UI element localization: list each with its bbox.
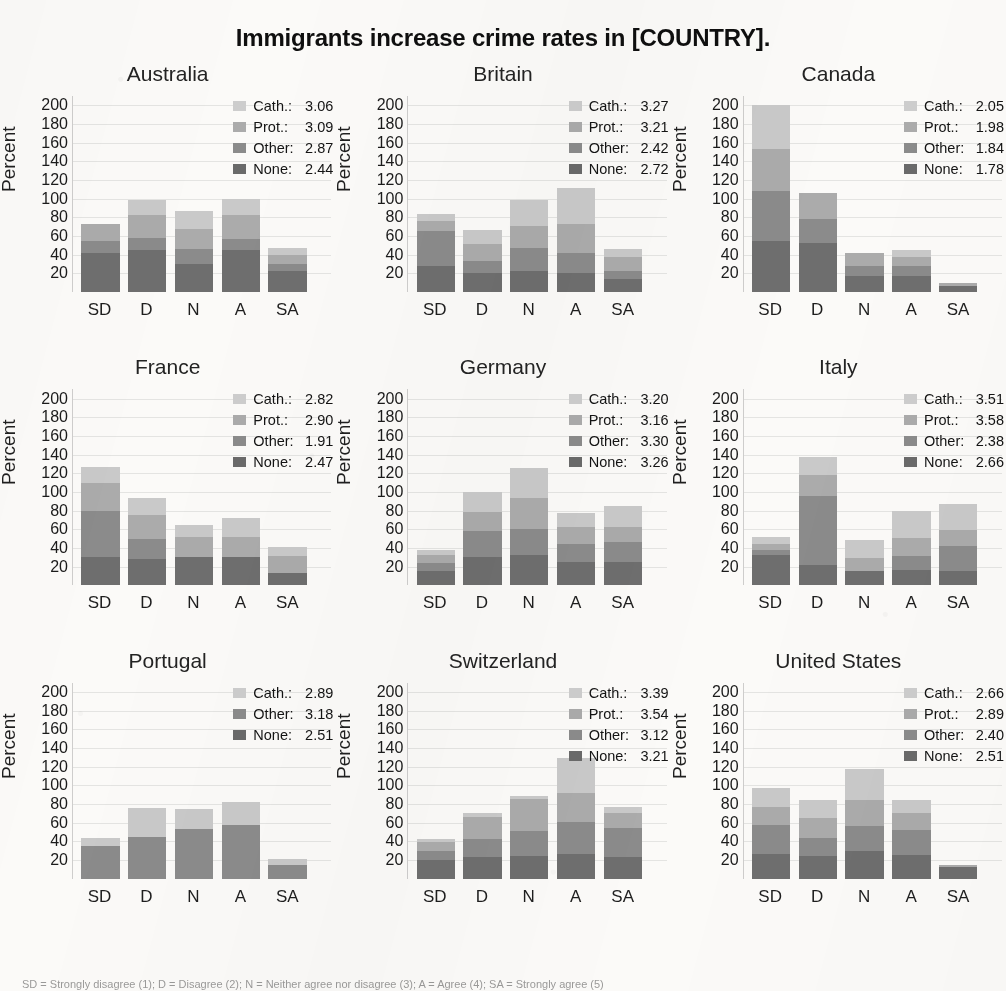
legend-item-prot[interactable]: Prot.:3.58: [904, 412, 1004, 428]
stacked-bar[interactable]: [752, 537, 790, 586]
legend-item-cath[interactable]: Cath.:2.89: [233, 685, 333, 701]
stacked-bar[interactable]: [799, 193, 837, 292]
legend-item-prot[interactable]: Prot.:1.98: [904, 119, 1004, 135]
bar-segment-cath: [752, 105, 790, 149]
stacked-bar[interactable]: [510, 796, 548, 879]
stacked-bar[interactable]: [81, 224, 119, 292]
legend-item-none[interactable]: None:2.44: [233, 161, 333, 177]
y-tick-label: 160: [712, 428, 739, 444]
legend-item-none[interactable]: None:2.66: [904, 454, 1004, 470]
stacked-bar[interactable]: [510, 468, 548, 586]
legend-item-none[interactable]: None:2.72: [569, 161, 669, 177]
stacked-bar[interactable]: [417, 839, 455, 878]
stacked-bar[interactable]: [557, 188, 595, 293]
legend-item-none[interactable]: None:3.26: [569, 454, 669, 470]
legend-text: None:2.47: [253, 454, 333, 470]
legend-item-prot[interactable]: Prot.:2.90: [233, 412, 333, 428]
legend-item-prot[interactable]: Prot.:3.54: [569, 706, 669, 722]
stacked-bar[interactable]: [128, 200, 166, 292]
legend-item-none[interactable]: None:3.21: [569, 748, 669, 764]
stacked-bar[interactable]: [845, 540, 883, 586]
legend-item-prot[interactable]: Prot.:3.09: [233, 119, 333, 135]
stacked-bar[interactable]: [752, 105, 790, 292]
legend-text: Other:2.40: [924, 727, 1004, 743]
bar-segment-none: [268, 573, 306, 585]
stacked-bar[interactable]: [939, 504, 977, 585]
legend-item-prot[interactable]: Prot.:3.21: [569, 119, 669, 135]
legend-item-prot[interactable]: Prot.:3.16: [569, 412, 669, 428]
stacked-bar[interactable]: [81, 838, 119, 879]
stacked-bar[interactable]: [463, 813, 501, 878]
legend-item-none[interactable]: None:2.51: [233, 727, 333, 743]
legend-item-other[interactable]: Other:1.91: [233, 433, 333, 449]
legend-item-none[interactable]: None:2.47: [233, 454, 333, 470]
stacked-bar[interactable]: [175, 211, 213, 292]
stacked-bar[interactable]: [268, 547, 306, 585]
stacked-bar[interactable]: [128, 808, 166, 879]
stacked-bar[interactable]: [268, 248, 306, 292]
legend-item-cath[interactable]: Cath.:3.20: [569, 391, 669, 407]
stacked-bar[interactable]: [81, 467, 119, 586]
stacked-bar[interactable]: [939, 865, 977, 879]
stacked-bar[interactable]: [845, 253, 883, 292]
legend-item-none[interactable]: None:1.78: [904, 161, 1004, 177]
legend-key: None:: [253, 727, 299, 743]
stacked-bar[interactable]: [463, 230, 501, 292]
stacked-bar[interactable]: [557, 513, 595, 586]
bar-segment-none: [752, 555, 790, 586]
legend-text: Cath.:2.89: [253, 685, 333, 701]
bar-segment-other: [557, 822, 595, 855]
bar-segment-other: [81, 846, 119, 879]
legend-value: 2.51: [303, 727, 333, 743]
legend-item-other[interactable]: Other:2.40: [904, 727, 1004, 743]
legend-item-other[interactable]: Other:2.87: [233, 140, 333, 156]
y-ticks-italy: 20406080100120140160180200: [693, 389, 739, 585]
stacked-bar[interactable]: [175, 809, 213, 879]
stacked-bar[interactable]: [799, 800, 837, 878]
legend-value: 3.18: [303, 706, 333, 722]
legend-item-none[interactable]: None:2.51: [904, 748, 1004, 764]
legend-item-cath[interactable]: Cath.:2.66: [904, 685, 1004, 701]
legend-item-other[interactable]: Other:1.84: [904, 140, 1004, 156]
stacked-bar[interactable]: [845, 769, 883, 878]
stacked-bar[interactable]: [604, 506, 642, 585]
stacked-bar[interactable]: [604, 249, 642, 292]
stacked-bar[interactable]: [604, 807, 642, 879]
stacked-bar[interactable]: [892, 250, 930, 292]
bar-segment-none: [892, 276, 930, 292]
legend-item-cath[interactable]: Cath.:3.27: [569, 98, 669, 114]
legend-value: 3.20: [639, 391, 669, 407]
stacked-bar[interactable]: [417, 550, 455, 585]
y-tick-label: 20: [721, 559, 739, 575]
legend-item-other[interactable]: Other:3.12: [569, 727, 669, 743]
legend-item-cath[interactable]: Cath.:2.82: [233, 391, 333, 407]
stacked-bar[interactable]: [510, 200, 548, 292]
legend-item-prot[interactable]: Prot.:2.89: [904, 706, 1004, 722]
stacked-bar[interactable]: [892, 800, 930, 878]
stacked-bar[interactable]: [222, 802, 260, 879]
stacked-bar[interactable]: [417, 214, 455, 292]
stacked-bar[interactable]: [175, 525, 213, 586]
legend-item-cath[interactable]: Cath.:2.05: [904, 98, 1004, 114]
legend-item-cath[interactable]: Cath.:3.06: [233, 98, 333, 114]
y-tick-label: 120: [377, 759, 404, 775]
bar-segment-none: [417, 266, 455, 292]
stacked-bar[interactable]: [892, 511, 930, 586]
stacked-bar[interactable]: [463, 492, 501, 585]
x-tick-label-sa: SA: [935, 593, 982, 617]
legend-item-cath[interactable]: Cath.:3.51: [904, 391, 1004, 407]
stacked-bar[interactable]: [557, 758, 595, 878]
stacked-bar[interactable]: [222, 199, 260, 292]
legend-item-other[interactable]: Other:3.18: [233, 706, 333, 722]
stacked-bar[interactable]: [799, 457, 837, 585]
legend-item-other[interactable]: Other:2.38: [904, 433, 1004, 449]
legend-item-other[interactable]: Other:2.42: [569, 140, 669, 156]
stacked-bar[interactable]: [128, 498, 166, 586]
stacked-bar[interactable]: [939, 283, 977, 292]
legend-item-other[interactable]: Other:3.30: [569, 433, 669, 449]
bar-slot-sd: [77, 96, 124, 292]
legend-item-cath[interactable]: Cath.:3.39: [569, 685, 669, 701]
stacked-bar[interactable]: [752, 788, 790, 879]
stacked-bar[interactable]: [222, 518, 260, 585]
stacked-bar[interactable]: [268, 859, 306, 879]
